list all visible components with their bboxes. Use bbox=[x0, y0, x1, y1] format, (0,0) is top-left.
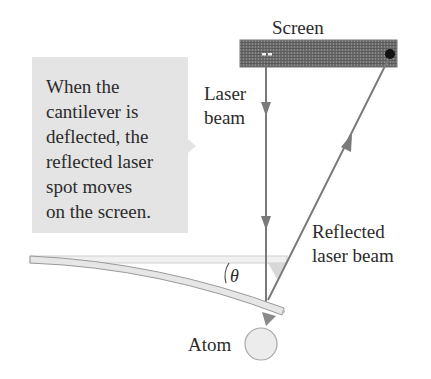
callout-pointer bbox=[188, 139, 196, 153]
atom-circle bbox=[245, 328, 277, 360]
arrow-down-icon bbox=[261, 216, 271, 230]
original-spot-mark bbox=[262, 53, 266, 56]
theta-label: θ bbox=[230, 265, 239, 287]
reflected-beam-label: Reflected laser beam bbox=[312, 220, 394, 268]
deflected-cantilever bbox=[30, 256, 285, 326]
angle-arc bbox=[225, 263, 229, 283]
laser-beam-label: Laser beam bbox=[204, 82, 246, 130]
probe-tip bbox=[262, 312, 276, 326]
atom-label: Atom bbox=[188, 334, 231, 356]
arrow-down-icon bbox=[261, 102, 271, 116]
callout-box: When the cantilever is deflected, the re… bbox=[32, 57, 188, 233]
screen-label: Screen bbox=[272, 17, 324, 39]
callout-text: When the cantilever is deflected, the re… bbox=[46, 74, 188, 224]
laser-beam bbox=[261, 67, 271, 302]
reflected-spot bbox=[385, 49, 395, 59]
screen bbox=[240, 40, 397, 67]
